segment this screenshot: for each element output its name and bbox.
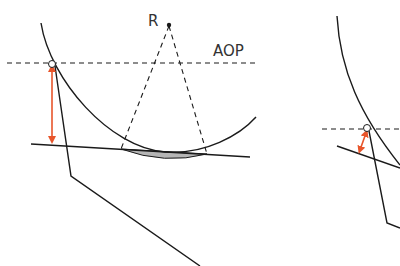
radius-dashed-right — [169, 26, 207, 154]
circle-arc-right — [337, 16, 400, 165]
chord-line-right — [337, 146, 400, 168]
left-panel: R AOP — [7, 12, 259, 266]
contact-point-icon-right — [364, 125, 371, 132]
center-label: R — [148, 12, 158, 30]
diagram-canvas: R AOP — [0, 0, 400, 266]
aop-label: AOP — [213, 42, 244, 60]
contact-point-icon — [49, 61, 56, 68]
right-panel — [322, 16, 400, 228]
radius-dashed-left — [121, 26, 169, 149]
distance-arrow-right — [360, 133, 366, 150]
center-point-icon — [167, 23, 171, 27]
